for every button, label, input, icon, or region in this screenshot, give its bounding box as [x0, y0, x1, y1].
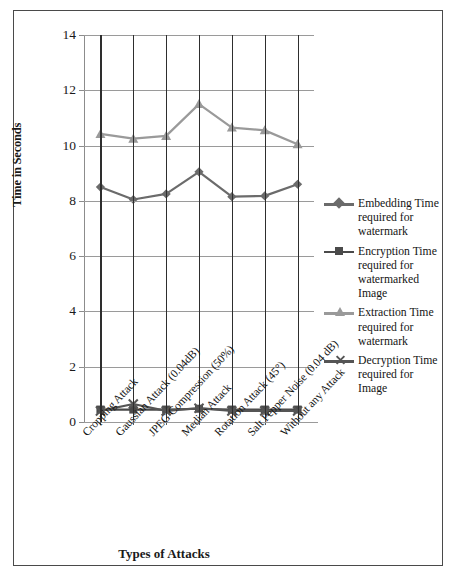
category-line	[100, 35, 101, 422]
legend-item-label: Embedding Time required for watermark	[358, 197, 439, 238]
y-tick-label: 4	[46, 304, 76, 318]
legend-item[interactable]: Encryption Time required for watermarked…	[324, 245, 444, 302]
category-line	[166, 35, 167, 422]
category-line	[133, 35, 134, 422]
y-tick-label: 12	[46, 83, 76, 97]
y-tick-label: 6	[46, 249, 76, 263]
legend-diamond-icon	[324, 202, 354, 206]
y-tick-label: 8	[46, 194, 76, 208]
legend-item-label: Extraction Time required for watermark	[358, 306, 434, 347]
legend-item[interactable]: Embedding Time required for watermark	[324, 197, 444, 240]
y-tick-label: 0	[46, 415, 76, 429]
legend-square-icon	[324, 250, 354, 254]
y-axis-title: Time in Seconds	[10, 123, 25, 207]
category-line	[298, 35, 299, 422]
legend-item[interactable]: Decryption Time required for Image	[324, 354, 444, 397]
legend-item-label: Encryption Time required for watermarked…	[358, 245, 437, 301]
legend-item-label: Decryption Time required for Image	[358, 354, 438, 395]
y-tick-label: 10	[46, 139, 76, 153]
category-line	[232, 35, 233, 422]
category-line	[199, 35, 200, 422]
x-axis-title: Types of Attacks	[14, 546, 314, 562]
chart-figure-frame: Time in Seconds 02468101214 Cropping Att…	[13, 10, 443, 566]
legend-item[interactable]: Extraction Time required for watermark	[324, 306, 444, 349]
category-line	[265, 35, 266, 422]
legend-triangle-icon	[324, 311, 354, 315]
legend-cross-icon	[324, 359, 354, 363]
chart-legend: Embedding Time required for watermarkEnc…	[324, 197, 444, 402]
y-tick-label: 2	[46, 360, 76, 374]
y-tick-label: 14	[46, 28, 76, 42]
